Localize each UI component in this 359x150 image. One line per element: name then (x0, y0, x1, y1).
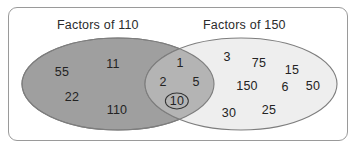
venn-number-right-only-15: 15 (285, 63, 299, 77)
venn-number-left-only-110: 110 (107, 103, 128, 117)
venn-number-left-only-55: 55 (55, 65, 69, 79)
venn-number-intersection-5: 5 (192, 75, 199, 89)
venn-number-right-only-25: 25 (262, 103, 276, 117)
venn-number-intersection-1: 1 (176, 56, 183, 70)
venn-number-right-only-150: 150 (236, 79, 257, 93)
venn-diagram-page: Factors of 110 Factors of 150 5511221101… (0, 0, 359, 150)
venn-shapes (0, 0, 359, 150)
venn-number-right-only-6: 6 (281, 80, 288, 94)
right-set-title: Factors of 150 (203, 18, 286, 32)
venn-number-intersection-2: 2 (159, 75, 166, 89)
venn-number-right-only-30: 30 (222, 106, 236, 120)
venn-number-right-only-75: 75 (252, 56, 266, 70)
venn-number-left-only-22: 22 (65, 90, 79, 104)
left-set-title: Factors of 110 (57, 18, 139, 32)
venn-number-left-only-11: 11 (106, 57, 119, 71)
venn-number-right-only-3: 3 (223, 50, 230, 64)
venn-number-right-only-50: 50 (306, 79, 320, 93)
